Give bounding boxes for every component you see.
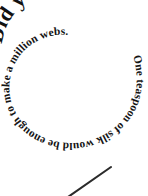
fact-span: One teaspoon of silk would be enough to … — [0, 25, 147, 153]
headline-label: Did you know? — [0, 0, 122, 45]
diagonal-stroke-mark — [68, 167, 111, 196]
spiral-text-graphic: Did you know? One teaspoon of silk would… — [0, 0, 148, 196]
fact-label: One teaspoon of silk would be enough to … — [0, 25, 147, 153]
spiral-text-image: Did you know? One teaspoon of silk would… — [0, 0, 148, 196]
headline-span: Did you know? — [0, 0, 122, 45]
